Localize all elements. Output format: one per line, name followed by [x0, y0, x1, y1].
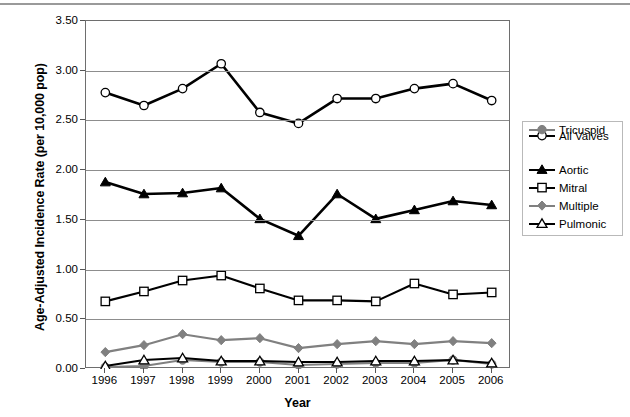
- data-point-marker: [140, 341, 149, 350]
- data-point-marker: [101, 347, 110, 356]
- legend-item-pulmonic[interactable]: Pulmonic: [529, 216, 606, 231]
- data-point-marker: [372, 297, 380, 305]
- legend-item-label: Aortic: [559, 164, 588, 176]
- y-tick-mark: [80, 368, 85, 369]
- legend-item-label: Tricuspid: [559, 124, 605, 136]
- y-tick-label: 0.00: [30, 362, 78, 374]
- data-point-marker: [217, 271, 225, 279]
- series-multiple: [101, 330, 496, 357]
- top-divider-rule: [0, 3, 630, 5]
- data-point-marker: [256, 108, 264, 116]
- x-tick-mark: [336, 368, 337, 373]
- data-point-marker: [140, 287, 148, 295]
- legend-marker-icon: [529, 163, 555, 176]
- y-tick-label: 3.00: [30, 64, 78, 76]
- data-point-marker: [487, 96, 495, 104]
- x-tick-mark: [452, 368, 453, 373]
- data-point-marker: [256, 284, 264, 292]
- data-point-marker: [333, 296, 341, 304]
- y-tick-label: 1.00: [30, 263, 78, 275]
- legend-marker-icon: [529, 217, 555, 230]
- data-point-marker: [178, 84, 186, 92]
- x-tick-mark: [413, 368, 414, 373]
- data-point-marker: [140, 101, 148, 109]
- data-point-marker: [410, 84, 418, 92]
- data-point-marker: [487, 339, 496, 348]
- data-point-marker: [449, 290, 457, 298]
- gridline: [86, 319, 509, 320]
- legend-marker-icon: [529, 199, 555, 212]
- x-tick-mark: [375, 368, 376, 373]
- legend-item-multiple[interactable]: Multiple: [529, 198, 599, 213]
- data-point-marker: [178, 276, 186, 284]
- x-tick-mark: [259, 368, 260, 373]
- legend-item-aortic[interactable]: Aortic: [529, 162, 588, 177]
- y-tick-label: 1.50: [30, 213, 78, 225]
- gridline: [86, 220, 509, 221]
- data-point-marker: [372, 94, 380, 102]
- data-point-marker: [294, 296, 302, 304]
- data-point-marker: [449, 337, 458, 346]
- data-point-marker: [449, 79, 457, 87]
- data-point-marker: [538, 125, 546, 133]
- x-tick-mark: [104, 368, 105, 373]
- data-point-marker: [101, 88, 109, 96]
- x-tick-label: 2006: [461, 374, 521, 386]
- data-point-marker: [538, 183, 546, 191]
- gridline: [86, 270, 509, 271]
- x-tick-mark: [491, 368, 492, 373]
- data-point-marker: [217, 60, 225, 68]
- data-point-marker: [333, 340, 342, 349]
- data-point-marker: [294, 344, 303, 353]
- legend-marker-icon: [529, 123, 555, 136]
- data-point-marker: [371, 337, 380, 346]
- gridline: [86, 120, 509, 121]
- chart-legend: All ValvesAorticMitralMultiplePulmonicTr…: [522, 121, 623, 236]
- y-tick-label: 3.50: [30, 14, 78, 26]
- legend-item-mitral[interactable]: Mitral: [529, 180, 587, 195]
- legend-marker-icon: [529, 181, 555, 194]
- x-tick-mark: [182, 368, 183, 373]
- series-mitral: [101, 271, 496, 305]
- y-tick-label: 2.50: [30, 113, 78, 125]
- data-point-marker: [100, 177, 110, 186]
- plot-area: [85, 20, 510, 368]
- x-tick-mark: [143, 368, 144, 373]
- gridline: [86, 71, 509, 72]
- data-point-marker: [487, 288, 495, 296]
- data-point-marker: [255, 334, 264, 343]
- series-layer: [86, 21, 511, 369]
- data-point-marker: [537, 219, 547, 228]
- data-point-marker: [178, 330, 187, 339]
- legend-item-tricuspid[interactable]: Tricuspid: [529, 122, 605, 137]
- x-tick-mark: [298, 368, 299, 373]
- data-point-marker: [332, 189, 342, 198]
- data-point-marker: [537, 165, 547, 174]
- x-axis-title: Year: [85, 396, 510, 410]
- legend-item-label: Pulmonic: [559, 218, 606, 230]
- data-point-marker: [217, 336, 226, 345]
- y-tick-label: 2.00: [30, 163, 78, 175]
- x-tick-mark: [220, 368, 221, 373]
- data-point-marker: [538, 201, 547, 210]
- legend-item-label: Multiple: [559, 200, 599, 212]
- y-tick-label: 0.50: [30, 312, 78, 324]
- series-aortic: [100, 177, 496, 239]
- legend-item-label: Mitral: [559, 182, 587, 194]
- data-point-marker: [410, 340, 419, 349]
- gridline: [86, 170, 509, 171]
- data-point-marker: [410, 279, 418, 287]
- data-point-marker: [101, 297, 109, 305]
- data-point-marker: [333, 94, 341, 102]
- chart-figure: Age-Adjusted Incidence Rate (per 10,000 …: [0, 0, 630, 417]
